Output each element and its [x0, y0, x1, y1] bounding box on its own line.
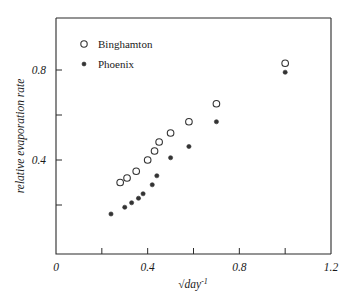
y-axis-ticks — [56, 70, 62, 205]
x-tick-label: 0.8 — [232, 261, 247, 273]
data-point — [168, 156, 172, 160]
axes-frame — [56, 18, 331, 254]
data-point — [155, 174, 159, 178]
data-point — [213, 100, 220, 107]
data-point — [214, 120, 218, 124]
data-point — [117, 179, 124, 186]
x-tick-label: 0 — [53, 261, 59, 273]
data-point — [151, 148, 158, 155]
y-tick-label: 0.8 — [32, 64, 47, 76]
x-axis-title-exponent: -1 — [201, 277, 208, 286]
legend-marker-filled-circle — [82, 62, 86, 66]
legend-label: Phoenix — [98, 58, 135, 70]
data-point — [133, 168, 140, 175]
data-point — [123, 205, 127, 209]
data-point — [150, 183, 154, 187]
data-point — [283, 70, 287, 74]
x-axis-tick-labels: 00.40.81.2 — [53, 261, 338, 273]
data-point — [282, 60, 289, 67]
x-tick-label: 0.4 — [140, 261, 155, 273]
data-point — [156, 139, 163, 146]
svg-text:√day-1: √day-1 — [178, 277, 208, 291]
legend-label: Binghamton — [98, 38, 153, 50]
scatter-plot-figure: 00.40.81.2 0.40.8 √day-1 relative evapor… — [0, 0, 355, 303]
series-binghamton-points — [117, 60, 289, 186]
y-axis-title: relative evaporation rate — [14, 79, 27, 194]
y-axis-tick-labels: 0.40.8 — [32, 64, 47, 166]
data-point — [109, 212, 113, 216]
x-axis-title-base: day — [185, 278, 203, 291]
data-point — [141, 192, 145, 196]
chart-legend: BinghamtonPhoenix — [81, 38, 153, 70]
data-point — [144, 157, 151, 164]
x-axis-title: √day-1 — [178, 277, 208, 291]
series-phoenix-points — [109, 70, 287, 216]
axis-frame-path — [56, 18, 331, 254]
data-point — [187, 144, 191, 148]
x-tick-label: 1.2 — [324, 261, 339, 273]
x-axis-ticks — [102, 248, 285, 254]
data-point — [167, 130, 174, 137]
chart-canvas: 00.40.81.2 0.40.8 √day-1 relative evapor… — [0, 0, 355, 303]
data-point — [124, 175, 131, 182]
y-tick-label: 0.4 — [32, 154, 47, 166]
legend-marker-open-circle — [81, 41, 87, 47]
data-point — [130, 201, 134, 205]
data-point — [136, 196, 140, 200]
data-point — [186, 118, 193, 125]
y-axis-title-text: relative evaporation rate — [14, 79, 27, 194]
